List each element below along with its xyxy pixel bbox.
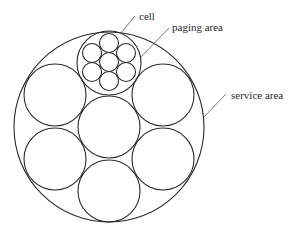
large-area-circle — [78, 160, 140, 222]
cell-circle — [83, 44, 102, 63]
paging-area-leader-line — [141, 28, 169, 57]
cell-leader-line — [121, 16, 135, 33]
service-area-circle — [14, 32, 204, 222]
cell-circle — [100, 72, 119, 91]
large-area-circle — [78, 96, 140, 158]
cell-label: cell — [139, 10, 155, 22]
large-area-circle — [24, 64, 86, 126]
large-area-circle — [24, 128, 86, 190]
cell-circle — [100, 53, 119, 72]
cell-circle — [100, 34, 119, 53]
paging-area-label: paging area — [172, 21, 223, 33]
large-area-circle — [132, 128, 194, 190]
cell-circle — [83, 63, 102, 82]
cell-circle — [117, 63, 136, 82]
service-area-label: service area — [231, 89, 283, 101]
service-area-leader-line — [203, 94, 226, 118]
large-area-group — [24, 64, 194, 222]
large-area-circle — [132, 64, 194, 126]
paging-area-circle — [77, 31, 141, 95]
paging-area-diagram: cell paging area service area — [0, 0, 293, 232]
cell-group — [83, 34, 136, 91]
cell-circle — [117, 44, 136, 63]
